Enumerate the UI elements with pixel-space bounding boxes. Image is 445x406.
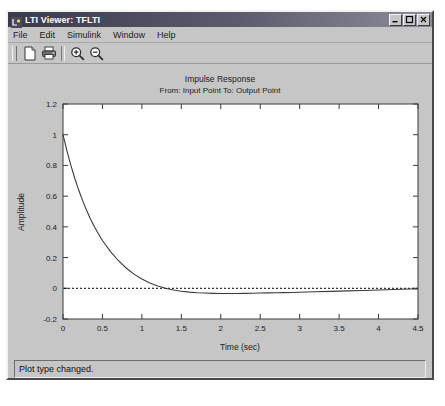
close-button[interactable] [417,14,430,26]
lti-viewer-window: LTI Viewer: TFLTI File Edit Simulink Win… [6,10,434,380]
menu-item-help[interactable]: Help [157,30,183,40]
toolbar-separator [61,46,65,61]
y-tick-label: 0.6 [46,192,58,201]
x-tick-label: 3 [297,324,302,333]
title-bar: LTI Viewer: TFLTI [8,12,432,27]
lti-viewer-icon [11,14,22,25]
zoom-out-icon[interactable] [87,44,106,62]
y-tick-label: -0.2 [43,315,57,324]
x-tick-label: 4.5 [412,324,424,333]
toolbar [8,43,432,64]
chart-subtitle: From: Input Point To: Output Point [160,86,282,95]
toolbar-grip[interactable] [12,46,17,61]
x-tick-label: 4 [376,324,381,333]
y-tick-label: 1 [53,131,58,140]
x-tick-label: 1 [140,324,145,333]
y-tick-label: 0.2 [46,254,58,263]
menu-bar: File Edit Simulink Window Help [8,27,432,43]
menu-item-simulink[interactable]: Simulink [67,30,108,40]
print-icon[interactable] [39,44,58,62]
maximize-button[interactable] [403,14,416,26]
chart-title: Impulse Response [185,74,256,84]
x-axis-label: Time (sec) [220,342,260,352]
impulse-response-figure: Impulse Response From: Input Point To: O… [8,64,432,358]
menu-item-file[interactable]: File [13,30,35,40]
status-message: Plot type changed. [19,364,94,374]
x-tick-label: 1.5 [176,324,188,333]
y-tick-label: 0 [53,284,58,293]
status-bar: Plot type changed. [14,360,426,378]
x-tick-label: 2.5 [255,324,267,333]
chart-canvas[interactable]: Impulse Response From: Input Point To: O… [8,64,432,358]
minimize-button[interactable] [389,14,402,26]
y-tick-label: 0.8 [46,161,58,170]
plot-area[interactable] [63,104,418,319]
new-document-icon[interactable] [20,44,39,62]
x-tick-label: 2 [219,324,224,333]
x-tick-label: 3.5 [334,324,346,333]
menu-item-window[interactable]: Window [113,30,152,40]
y-tick-label: 0.4 [46,223,58,232]
window-title: LTI Viewer: TFLTI [25,15,389,25]
window-controls [389,14,430,26]
y-tick-label: 1.2 [46,100,58,109]
zoom-in-icon[interactable] [68,44,87,62]
y-axis-label: Amplitude [16,193,26,231]
x-tick-label: 0 [61,324,66,333]
menu-item-edit[interactable]: Edit [40,30,63,40]
x-tick-label: 0.5 [97,324,109,333]
